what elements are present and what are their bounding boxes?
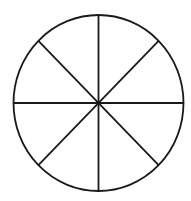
center-point — [96, 101, 100, 105]
divided-circle-diagram — [0, 0, 191, 201]
diagram-canvas — [0, 0, 191, 201]
